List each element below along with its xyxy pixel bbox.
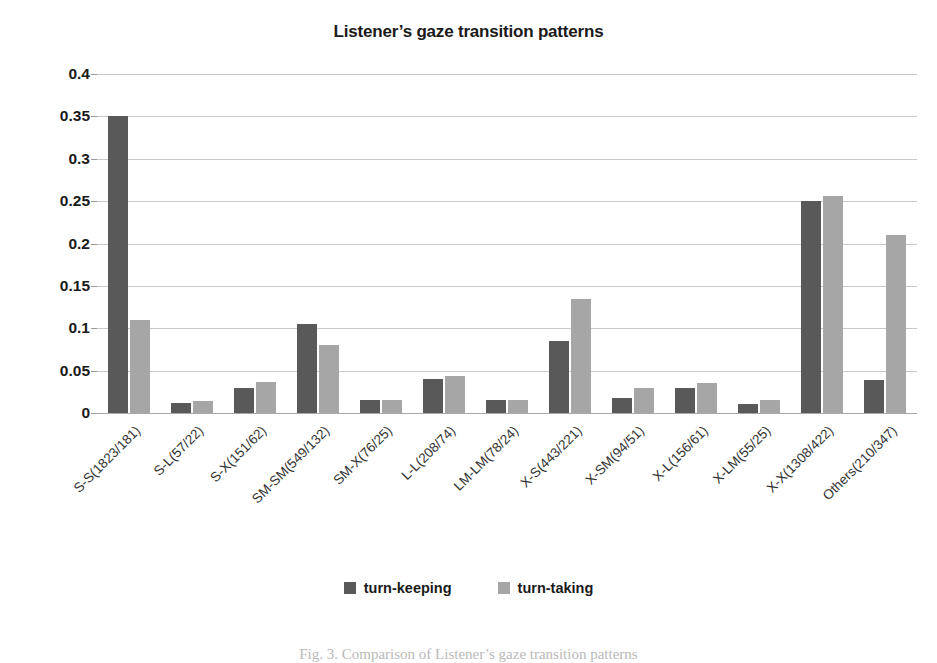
bar-turn-taking[interactable] (382, 400, 402, 413)
bar-turn-keeping[interactable] (612, 398, 632, 413)
bar-group (160, 74, 223, 413)
bars-layer (97, 74, 917, 413)
y-axis-tick-label: 0 (20, 405, 90, 421)
bar-group (286, 74, 349, 413)
bar-group (475, 74, 538, 413)
bar-group (728, 74, 791, 413)
x-axis-tick-label: S-X(151/62) (207, 423, 269, 485)
x-axis-tick-label: S-S(1823/181) (70, 423, 143, 496)
x-axis-tick-label: X-L(156/61) (650, 423, 711, 484)
bar-turn-keeping[interactable] (108, 116, 128, 413)
bar-turn-taking[interactable] (697, 383, 717, 414)
figure-caption: Fig. 3. Comparison of Listener’s gaze tr… (0, 646, 937, 663)
x-axis-tick-label: L-L(208/74) (398, 423, 458, 483)
bar-group (539, 74, 602, 413)
y-axis: 0.40.350.30.250.20.150.10.050 (20, 74, 90, 413)
bar-turn-taking[interactable] (823, 196, 843, 413)
bar-turn-keeping[interactable] (297, 324, 317, 413)
bar-group (791, 74, 854, 413)
y-axis-tick-label: 0.2 (20, 236, 90, 252)
bar-group (223, 74, 286, 413)
legend-label: turn-keeping (364, 580, 452, 596)
bar-turn-keeping[interactable] (801, 201, 821, 413)
bar-turn-taking[interactable] (193, 401, 213, 413)
bar-group (412, 74, 475, 413)
chart-title: Listener’s gaze transition patterns (0, 22, 937, 42)
bar-turn-taking[interactable] (634, 388, 654, 413)
legend-swatch-icon (498, 582, 510, 594)
bar-turn-keeping[interactable] (675, 388, 695, 413)
legend-item[interactable]: turn-taking (498, 580, 594, 596)
legend-label: turn-taking (518, 580, 594, 596)
y-axis-tick-label: 0.1 (20, 321, 90, 337)
x-axis-tick-label: X-LM(55/25) (710, 423, 774, 487)
x-axis-tick-label: X-SM(94/51) (583, 423, 648, 488)
bar-group (349, 74, 412, 413)
x-axis: S-S(1823/181)S-L(57/22)S-X(151/62)SM-SM(… (97, 413, 917, 563)
bar-turn-keeping[interactable] (864, 380, 884, 413)
y-axis-tick-label: 0.25 (20, 193, 90, 209)
bar-group (854, 74, 917, 413)
legend-swatch-icon (344, 582, 356, 594)
y-axis-tick-label: 0.4 (20, 66, 90, 82)
bar-turn-keeping[interactable] (234, 388, 254, 413)
x-axis-tick-label: S-L(57/22) (150, 423, 206, 479)
bar-turn-keeping[interactable] (171, 403, 191, 413)
chart-legend: turn-keepingturn-taking (0, 580, 937, 596)
bar-turn-taking[interactable] (319, 345, 339, 413)
x-axis-tick-label: X-S(443/221) (518, 423, 585, 490)
bar-group (97, 74, 160, 413)
bar-turn-keeping[interactable] (486, 400, 506, 413)
bar-turn-keeping[interactable] (738, 404, 758, 413)
bar-turn-keeping[interactable] (360, 400, 380, 413)
bar-turn-taking[interactable] (445, 376, 465, 413)
bar-turn-taking[interactable] (508, 400, 528, 413)
bar-turn-keeping[interactable] (423, 379, 443, 413)
bar-turn-taking[interactable] (760, 400, 780, 413)
y-axis-tick-label: 0.3 (20, 151, 90, 167)
x-axis-tick-label: LM-LM(78/24) (451, 423, 522, 494)
bar-turn-taking[interactable] (256, 382, 276, 413)
legend-item[interactable]: turn-keeping (344, 580, 452, 596)
bar-turn-taking[interactable] (886, 235, 906, 413)
bar-turn-taking[interactable] (130, 320, 150, 413)
bar-turn-taking[interactable] (571, 299, 591, 413)
y-axis-tick-label: 0.05 (20, 363, 90, 379)
bar-group (602, 74, 665, 413)
y-axis-tick-label: 0.15 (20, 278, 90, 294)
bar-group (665, 74, 728, 413)
bar-turn-keeping[interactable] (549, 341, 569, 413)
x-axis-tick-label: SM-X(76/25) (330, 423, 395, 488)
y-axis-tick-label: 0.35 (20, 109, 90, 125)
